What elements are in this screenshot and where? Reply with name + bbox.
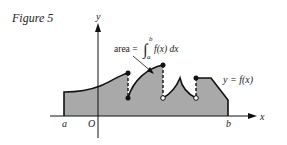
- y-axis-label: y: [95, 11, 101, 22]
- x-axis-arrow-icon: [248, 113, 257, 119]
- y-axis-arrow-icon: [95, 23, 101, 32]
- b-label: b: [226, 118, 231, 129]
- figure-5-diagram: Figure 5 y x O a b y = f(x) area = ∫ b a…: [0, 0, 287, 145]
- integral-lower-limit: a: [147, 53, 151, 61]
- curve-label: y = f(x): [222, 74, 254, 86]
- integrand: f(x) dx: [154, 44, 179, 55]
- area-label: area =: [114, 44, 138, 54]
- origin-label: O: [88, 118, 95, 129]
- a-label: a: [62, 118, 67, 129]
- x-axis-label: x: [259, 111, 265, 122]
- diagram-canvas: Figure 5 y x O a b y = f(x) area = ∫ b a…: [0, 0, 287, 145]
- integral-upper-limit: b: [149, 35, 153, 43]
- figure-caption: Figure 5: [11, 11, 53, 25]
